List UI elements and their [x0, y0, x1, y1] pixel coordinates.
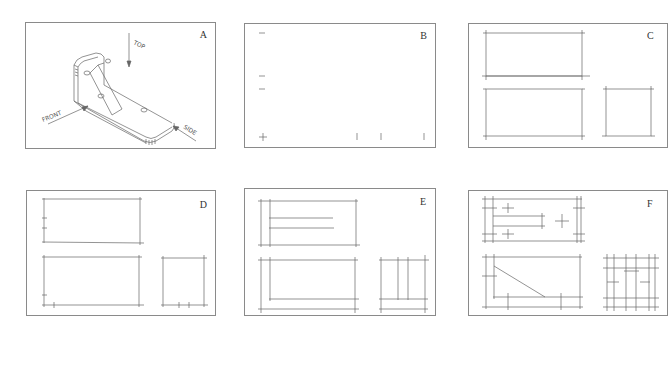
- panel-d: D: [26, 190, 216, 316]
- panel-a: A: [25, 22, 216, 149]
- layout-marks-drawing: [245, 24, 437, 149]
- blocked-views-drawing: [469, 24, 669, 149]
- isometric-bracket-drawing: [26, 23, 217, 150]
- panel-c: C: [468, 23, 668, 148]
- panel-e: E: [244, 188, 436, 316]
- panel-b: B: [244, 23, 436, 148]
- detailed-construction-drawing: [469, 191, 669, 317]
- front-arrow-icon: [48, 106, 88, 124]
- feature-ticks-drawing: [27, 191, 217, 317]
- panel-f: F: [468, 190, 668, 316]
- construction-lines-drawing: [245, 189, 437, 317]
